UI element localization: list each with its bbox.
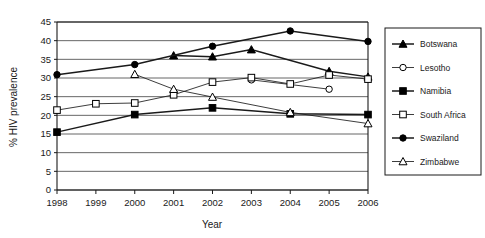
- data-point-marker-filled-square: [131, 111, 138, 118]
- data-point-marker-open-square: [54, 107, 61, 114]
- data-point-marker-open-square: [365, 76, 372, 83]
- legend-label: Lesotho: [420, 63, 451, 73]
- y-tick-label: 0: [46, 184, 51, 195]
- legend-label: Namibia: [420, 86, 451, 96]
- data-point-marker-open-square: [326, 72, 333, 79]
- legend-label: Botswana: [420, 39, 458, 49]
- data-point-marker-filled-circle: [287, 28, 293, 34]
- y-tick-label: 5: [46, 166, 51, 177]
- y-tick-label: 25: [40, 91, 51, 102]
- legend-label: Swaziland: [420, 133, 459, 143]
- data-point-marker-filled-square: [54, 129, 61, 136]
- x-tick-label: 2002: [202, 197, 223, 208]
- x-tick-label: 2006: [357, 197, 378, 208]
- data-point-marker-open-square: [131, 100, 138, 107]
- data-point-marker-open-square: [287, 81, 294, 88]
- x-tick-label: 2003: [241, 197, 262, 208]
- data-point-marker-open-circle: [326, 86, 332, 92]
- data-point-marker-filled-circle: [132, 61, 138, 67]
- y-tick-label: 10: [40, 147, 51, 158]
- x-axis-tick-labels: 199819992000200120022003200420052006: [46, 197, 378, 208]
- data-point-marker-filled-circle: [54, 71, 60, 77]
- data-point-marker-filled-square: [365, 111, 372, 118]
- y-tick-label: 45: [40, 16, 51, 27]
- legend-label: Zimbabwe: [420, 157, 459, 167]
- legend-item-zimbabwe[interactable]: Zimbabwe: [392, 157, 459, 167]
- x-tick-label: 2005: [319, 197, 340, 208]
- x-tick-label: 1999: [85, 197, 106, 208]
- legend-label: South Africa: [420, 110, 466, 120]
- data-point-marker-open-square: [209, 79, 216, 86]
- data-point-marker-open-square: [248, 74, 255, 81]
- y-tick-label: 15: [40, 128, 51, 139]
- y-tick-label: 30: [40, 72, 51, 83]
- legend: BotswanaLesothoNamibiaSouth AfricaSwazil…: [385, 28, 481, 175]
- y-tick-label: 20: [40, 110, 51, 121]
- x-tick-label: 2001: [163, 197, 184, 208]
- data-point-marker-open-square: [400, 111, 407, 118]
- data-point-marker-open-circle: [400, 64, 406, 70]
- data-point-marker-filled-circle: [209, 43, 215, 49]
- chart-canvas: 051015202530354045 199819992000200120022…: [0, 0, 485, 238]
- data-point-marker-filled-square: [400, 88, 407, 95]
- y-tick-label: 40: [40, 35, 51, 46]
- data-point-marker-filled-circle: [400, 135, 406, 141]
- x-tick-label: 2004: [280, 197, 301, 208]
- data-point-marker-open-square: [93, 100, 100, 107]
- x-tick-label: 1998: [46, 197, 67, 208]
- legend-item-south-africa[interactable]: South Africa: [392, 110, 466, 120]
- legend-item-namibia[interactable]: Namibia: [392, 86, 451, 96]
- y-axis-title: % HIV prevalence: [8, 67, 19, 147]
- x-axis-title: Year: [202, 219, 223, 230]
- legend-box: [385, 28, 481, 175]
- data-point-marker-filled-square: [209, 105, 216, 112]
- x-tick-label: 2000: [124, 197, 145, 208]
- data-point-marker-filled-circle: [365, 38, 371, 44]
- y-tick-label: 35: [40, 54, 51, 65]
- hiv-prevalence-line-chart: 051015202530354045 199819992000200120022…: [0, 0, 485, 238]
